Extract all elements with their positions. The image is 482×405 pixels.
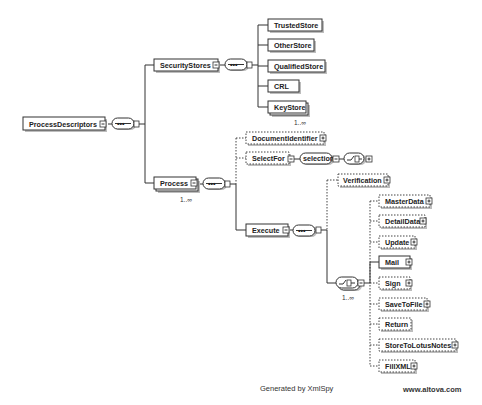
element-trusted-store[interactable]: TrustedStore	[268, 19, 324, 33]
svg-text:•••: •••	[230, 60, 238, 69]
svg-text:Execute: Execute	[252, 226, 280, 235]
svg-text:SecurityStores: SecurityStores	[160, 61, 211, 70]
element-select-for[interactable]: SelectFor	[246, 152, 294, 166]
sequence-compositor[interactable]: •••	[203, 178, 230, 190]
element-store-to-lotus-notes[interactable]: StoreToLotusNotes	[379, 339, 458, 353]
group-selection[interactable]: selection	[300, 153, 339, 165]
expand-icon[interactable]	[366, 156, 372, 162]
svg-text:KeyStore: KeyStore	[274, 103, 306, 112]
expand-icon[interactable]	[411, 239, 417, 245]
choice-compositor[interactable]	[344, 153, 372, 165]
element-process-descriptors[interactable]: ProcessDescriptors	[23, 117, 107, 132]
expand-icon[interactable]	[452, 342, 458, 348]
svg-text:Return: Return	[385, 320, 408, 329]
svg-text:•••: •••	[298, 226, 306, 235]
svg-text:DocumentIdentifier: DocumentIdentifier	[252, 134, 318, 143]
element-crl[interactable]: CRL	[268, 80, 301, 94]
expand-icon[interactable]	[320, 135, 326, 141]
expand-icon[interactable]	[426, 198, 432, 204]
element-update[interactable]: Update	[379, 236, 417, 250]
svg-text:ProcessDescriptors: ProcessDescriptors	[29, 120, 97, 129]
website-link[interactable]: www.altova.com	[402, 385, 462, 394]
collapse-icon[interactable]	[213, 62, 219, 68]
element-mail[interactable]: Mail	[379, 256, 412, 270]
element-qualified-store[interactable]: QualifiedStore	[268, 60, 327, 74]
svg-text:Verification: Verification	[343, 176, 382, 185]
collapse-icon[interactable]	[288, 156, 294, 162]
generated-by-label: Generated by XmlSpy	[260, 384, 334, 393]
svg-text:1..∞: 1..∞	[294, 119, 306, 126]
expand-icon[interactable]	[424, 301, 430, 307]
sequence-compositor[interactable]: •••	[225, 59, 252, 71]
svg-text:•••: •••	[117, 119, 125, 128]
svg-text:SaveToFile: SaveToFile	[385, 300, 422, 309]
collapse-icon[interactable]	[191, 180, 197, 186]
collapse-icon[interactable]	[100, 121, 106, 127]
expand-icon[interactable]	[420, 218, 426, 224]
element-security-stores[interactable]: SecurityStores	[154, 59, 220, 73]
svg-text:selection: selection	[303, 154, 334, 163]
collapse-icon[interactable]	[283, 227, 289, 233]
collapse-icon[interactable]	[247, 62, 252, 68]
svg-text:QualifiedStore: QualifiedStore	[274, 62, 323, 71]
element-fill-xml[interactable]: FillXML	[379, 360, 417, 374]
svg-text:CRL: CRL	[274, 82, 289, 91]
element-process[interactable]: Process 1..∞	[154, 177, 200, 203]
element-other-store[interactable]: OtherStore	[268, 39, 316, 53]
svg-text:SelectFor: SelectFor	[252, 154, 285, 163]
svg-text:Update: Update	[385, 238, 409, 247]
svg-text:TrustedStore: TrustedStore	[274, 21, 318, 30]
element-key-store[interactable]: KeyStore 1..∞	[268, 101, 310, 126]
svg-text:FillXML: FillXML	[385, 362, 411, 371]
element-sign[interactable]: Sign	[379, 277, 412, 291]
svg-text:•••: •••	[208, 179, 216, 188]
svg-text:StoreToLotusNotes: StoreToLotusNotes	[385, 341, 451, 350]
element-execute[interactable]: Execute	[246, 224, 290, 238]
element-document-identifier[interactable]: DocumentIdentifier	[246, 132, 326, 146]
element-master-data[interactable]: MasterData	[379, 195, 432, 209]
sequence-compositor[interactable]: •••	[293, 225, 321, 237]
svg-text:1..∞: 1..∞	[342, 294, 354, 301]
svg-text:OtherStore: OtherStore	[274, 41, 312, 50]
expand-icon[interactable]	[406, 259, 412, 265]
svg-text:1..∞: 1..∞	[180, 196, 192, 203]
collapse-icon[interactable]	[333, 156, 339, 162]
element-verification[interactable]: Verification	[338, 174, 390, 188]
collapse-icon[interactable]	[316, 227, 321, 233]
expand-icon[interactable]	[406, 280, 412, 286]
svg-text:Process: Process	[160, 179, 188, 188]
element-save-to-file[interactable]: SaveToFile	[379, 298, 430, 312]
element-detail-data[interactable]: DetailData	[379, 215, 427, 229]
collapse-icon[interactable]	[134, 121, 139, 127]
expand-icon[interactable]	[384, 177, 390, 183]
connectors	[108, 25, 379, 366]
svg-text:MasterData: MasterData	[385, 197, 425, 206]
svg-text:Mail: Mail	[385, 258, 399, 267]
sequence-compositor[interactable]: •••	[112, 118, 139, 130]
svg-text:Sign: Sign	[385, 279, 401, 288]
expand-icon[interactable]	[411, 363, 417, 369]
schema-diagram: ProcessDescriptors ••• SecurityStores ••…	[0, 0, 482, 405]
svg-text:DetailData: DetailData	[385, 217, 421, 226]
element-return[interactable]: Return	[379, 318, 413, 332]
collapse-icon[interactable]	[225, 181, 230, 187]
choice-compositor[interactable]: 1..∞	[336, 277, 364, 301]
collapse-icon[interactable]	[358, 280, 364, 286]
